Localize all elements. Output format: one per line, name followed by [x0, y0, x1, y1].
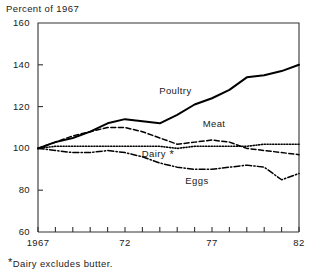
- x-tick-label: 1967: [18, 237, 58, 248]
- y-tick-label: 100: [4, 142, 30, 153]
- series-label-dairy: Dairy *: [142, 148, 174, 160]
- series-label-meat: Meat: [203, 118, 226, 129]
- y-tick-label: 160: [4, 17, 30, 28]
- x-tick-label: 82: [279, 237, 313, 248]
- chart-container: Percent of 1967 1601401201008060 1967727…: [0, 0, 313, 275]
- series-label-poultry: Poultry: [159, 85, 191, 96]
- y-tick-label: 60: [4, 226, 30, 237]
- x-tick-label: 72: [105, 237, 145, 248]
- y-tick-label: 140: [4, 59, 30, 70]
- axis-frame: [38, 23, 299, 232]
- series-label-eggs: Eggs: [185, 175, 208, 186]
- x-tick-label: 77: [192, 237, 232, 248]
- footnote-text: Dairy excludes butter.: [13, 258, 113, 269]
- y-tick-label: 80: [4, 184, 30, 195]
- chart-footnote: *Dairy excludes butter.: [8, 258, 113, 269]
- chart-plot-area: [0, 0, 313, 275]
- series-line-poultry: [38, 65, 299, 149]
- dairy-footnote-asterisk: *: [166, 148, 174, 160]
- y-tick-label: 120: [4, 101, 30, 112]
